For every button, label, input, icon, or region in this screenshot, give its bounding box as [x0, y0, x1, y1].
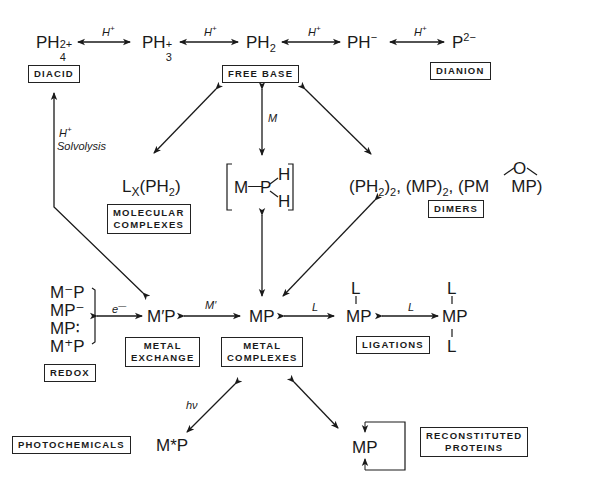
bracket-redox: [92, 288, 95, 344]
species-intermediate-h1: H: [278, 166, 290, 183]
species-metal-exchange: M′P: [147, 308, 176, 325]
label-solvolysis: Solvolysis: [57, 141, 106, 152]
box-ligations: LIGATIONS: [356, 336, 430, 354]
label-h-plus-4: H+: [414, 25, 427, 38]
species-ph-anion: PH−: [347, 34, 377, 51]
phthalocyanine-reaction-diagram: PH2+4 PH+3 PH2 PH− P2− H+ H+ H+ H+ DIACI…: [0, 0, 592, 477]
species-ph3: PH+3: [142, 34, 176, 51]
box-molecular-complexes: MOLECULAR COMPLEXES: [107, 204, 191, 234]
bracket-left: [227, 164, 232, 210]
species-photoexcited: M*P: [156, 437, 188, 454]
arrow-freebase-molecular: [154, 89, 216, 153]
species-intermediate-h2: H: [278, 193, 290, 210]
arrow-freebase-dimers: [305, 89, 371, 154]
species-ligated-mono-l: L: [351, 280, 360, 297]
species-intermediate-m: M: [234, 179, 248, 196]
box-photochemicals: PHOTOCHEMICALS: [12, 436, 131, 454]
box-redox: REDOX: [44, 364, 96, 382]
label-ligand-2: L: [408, 302, 414, 313]
box-metal-complexes: METAL COMPLEXES: [221, 337, 303, 367]
species-dimer-oxygen: O: [513, 160, 526, 177]
label-electron: e—: [112, 302, 126, 315]
species-metal-complex: MP: [249, 308, 275, 325]
label-metal-insertion: M: [268, 113, 277, 124]
arrow-mp-protein: [294, 382, 338, 428]
label-ligand-1: L: [312, 302, 318, 313]
label-solvolysis-h: H+: [59, 126, 72, 139]
species-redox-2: MP⁻: [50, 302, 84, 319]
label-h-plus-1: H+: [102, 25, 115, 38]
species-ligated-bis-top: L: [447, 280, 456, 297]
label-photon: hν: [186, 400, 198, 411]
species-redox-3: MP∶: [50, 320, 80, 337]
species-molecular-complex: LX(PH2): [122, 178, 181, 195]
species-redox-4: M⁺P: [50, 338, 84, 355]
species-ligated-bis-mp: MP: [442, 308, 468, 325]
label-metal-exchange: M′: [205, 300, 216, 311]
species-p-dianion: P2−: [452, 34, 476, 51]
box-metal-exchange: METAL EXCHANGE: [125, 337, 200, 367]
box-dimers: DIMERS: [428, 200, 484, 218]
arrow-dimers-mp: [283, 200, 375, 296]
box-dianion: DIANION: [430, 62, 491, 80]
species-ph2-freebase: PH2: [246, 34, 276, 51]
species-protein-mp: MP: [352, 439, 378, 456]
species-ligated-mono-mp: MP: [346, 308, 372, 325]
label-h-plus-2: H+: [204, 25, 217, 38]
species-dimers: (PH2)2, (MP)2, (PMMP): [349, 178, 542, 195]
box-free-base: FREE BASE: [222, 65, 299, 83]
species-redox-1: M⁻P: [50, 284, 84, 301]
label-h-plus-3: H+: [308, 25, 321, 38]
species-ligated-bis-bottom: L: [447, 338, 456, 355]
box-reconstituted-proteins: RECONSTITUTED PROTEINS: [420, 427, 528, 457]
box-diacid: DIACID: [28, 65, 80, 83]
species-intermediate-p: P: [260, 179, 271, 196]
species-ph4-diacid: PH2+4: [36, 34, 76, 51]
